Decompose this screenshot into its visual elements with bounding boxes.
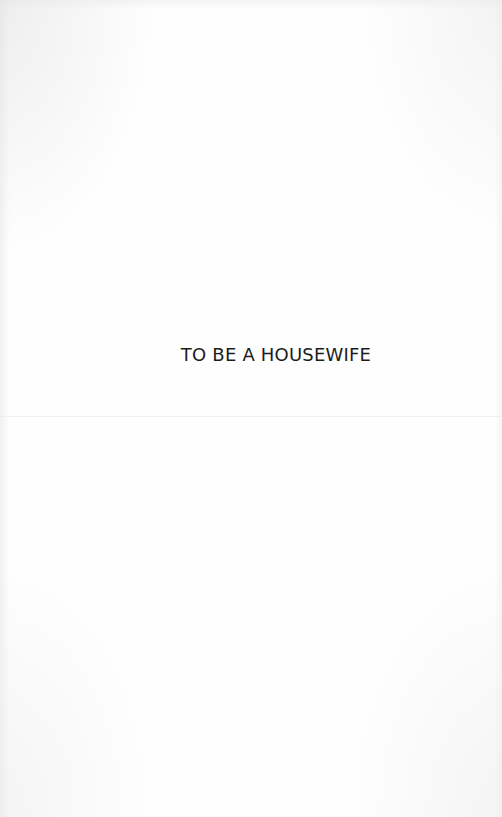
scanned-page: TO BE A HOUSEWIFE bbox=[0, 0, 502, 817]
page-title: TO BE A HOUSEWIFE bbox=[0, 344, 502, 366]
page-fold-divider bbox=[0, 416, 502, 417]
